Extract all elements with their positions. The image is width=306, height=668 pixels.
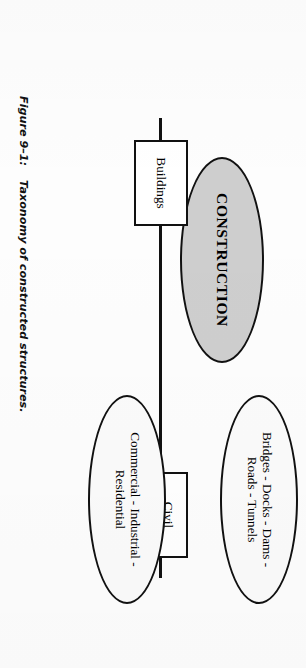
connector-civil-to-examples [160,556,163,578]
node-building-examples-label: Commercial - Industrial - Residential [112,420,142,578]
node-building-examples[interactable]: Commercial - Industrial - Residential [88,395,166,604]
node-civil-examples-label: Bridges - Docks - Dams - Roads - Tunnels [244,420,274,579]
node-construction-label: CONSTRUCTION [213,193,231,327]
node-buildings-label: Buildings [153,157,168,208]
figure-caption-text: Taxonomy of constructed structures. [17,180,30,412]
taxonomy-diagram: CONSTRUCTION Civil Structures Buildings … [46,0,306,668]
node-civil-examples-label-line1: Bridges - Docks - Dams - [260,432,275,567]
figure-caption: Figure 9–1:Taxonomy of constructed struc… [17,96,30,576]
figure-caption-number: Figure 9–1: [17,96,30,166]
figure-stage: CONSTRUCTION Civil Structures Buildings … [0,0,306,668]
node-building-examples-label-line1: Commercial - Industrial - [128,432,143,566]
node-construction-root[interactable]: CONSTRUCTION [180,157,264,363]
node-building-examples-label-line2: Residential [113,470,128,529]
node-buildings[interactable]: Buildings [134,140,188,226]
connector-buildings-to-examples [160,118,163,142]
node-civil-examples[interactable]: Bridges - Docks - Dams - Roads - Tunnels [220,395,298,604]
node-civil-examples-label-line2: Roads - Tunnels [245,457,260,543]
